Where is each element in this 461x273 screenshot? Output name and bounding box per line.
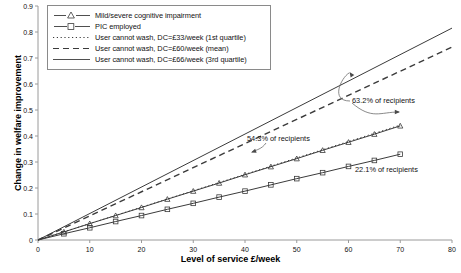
- legend-item-pic-employed: PIC employed: [52, 21, 265, 32]
- x-tick-label: 70: [396, 246, 404, 253]
- legend-item-user-cannot-wash-1st-quartile: User cannot wash, DC=£33/week (1st quart…: [52, 32, 265, 43]
- annotation-22-1-percent: 22.1% of recipients: [355, 165, 418, 174]
- series-marker-triangle: [398, 123, 403, 128]
- y-tick-label: 0: [29, 237, 33, 244]
- annotation-63-2-percent: 63.2% of recipients: [352, 96, 415, 105]
- x-tick-label: 0: [36, 246, 40, 253]
- legend-label: User cannot wash, DC=£60/week (mean): [95, 43, 229, 54]
- annotation-arrow-54-3-head: [251, 149, 257, 153]
- x-tick-label: 60: [345, 246, 353, 253]
- legend-key-solid-line: [52, 54, 92, 65]
- legend-label: PIC employed: [95, 21, 141, 32]
- x-tick-label: 10: [86, 246, 94, 253]
- series-line-2: [38, 125, 400, 240]
- x-tick-label: 80: [448, 246, 456, 253]
- legend-key-solid-line-square-marker: [52, 21, 92, 32]
- legend-item-user-cannot-wash-3rd-quartile: User cannot wash, DC=£66/week (3rd quart…: [52, 54, 265, 65]
- y-tick-label: 0.4: [23, 133, 33, 140]
- y-tick-label: 0.8: [23, 29, 33, 36]
- legend-key-dotted-line: [52, 32, 92, 43]
- series-line-0: [38, 126, 400, 240]
- y-tick-label: 0.3: [23, 159, 33, 166]
- y-tick-label: 0.6: [23, 81, 33, 88]
- y-axis-label: Change in welfare improvement: [13, 23, 23, 223]
- legend-key-solid-line-triangle-marker: [52, 10, 92, 21]
- y-tick-label: 0.2: [23, 185, 33, 192]
- annotation-arrow-63-2-b-head: [395, 110, 400, 114]
- x-tick-label: 20: [138, 246, 146, 253]
- legend-label: User cannot wash, DC=£33/week (1st quart…: [95, 32, 246, 43]
- series-line-3: [38, 47, 452, 240]
- annotation-arrow-63-2-head: [350, 72, 355, 78]
- x-tick-label: 30: [189, 246, 197, 253]
- chart-figure: 00.10.20.30.40.50.60.70.80.9010203040506…: [0, 0, 461, 273]
- x-tick-label: 40: [241, 246, 249, 253]
- chart-legend: Mild/severe cognitive impairment PIC emp…: [47, 5, 271, 70]
- x-tick-label: 50: [293, 246, 301, 253]
- legend-item-mild-severe-cognitive-impairment: Mild/severe cognitive impairment: [52, 10, 265, 21]
- legend-item-user-cannot-wash-mean: User cannot wash, DC=£60/week (mean): [52, 43, 265, 54]
- y-tick-label: 0.7: [23, 55, 33, 62]
- y-tick-label: 0.9: [23, 3, 33, 10]
- annotation-arrow-63-2: [339, 73, 350, 101]
- legend-label: User cannot wash, DC=£66/week (3rd quart…: [95, 54, 247, 65]
- y-tick-label: 0.5: [23, 107, 33, 114]
- x-axis-label: Level of service £/week: [0, 254, 461, 264]
- legend-key-dashed-line: [52, 43, 92, 54]
- legend-label: Mild/severe cognitive impairment: [95, 10, 201, 21]
- annotation-54-3-percent: 54.3% of recipients: [247, 134, 310, 143]
- y-tick-label: 0.1: [23, 211, 33, 218]
